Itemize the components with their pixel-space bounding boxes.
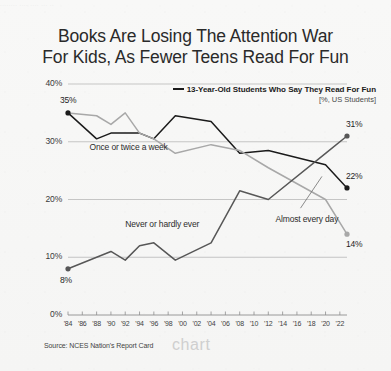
series-annotation: Almost every day [275, 214, 338, 224]
x-tick-label: '22 [331, 320, 349, 327]
y-tick-label: 0% [32, 309, 62, 319]
gridlines-group [68, 84, 347, 315]
series-annotation: Never or hardly ever [125, 219, 199, 229]
series-annotation: Once or twice a week [89, 142, 167, 152]
y-tick-label: 10% [32, 251, 62, 261]
series-lines-group [68, 113, 347, 269]
chart-page: ........ .... .... ... .. Books Are Losi… [0, 0, 391, 371]
value-label-start-once: 35% [60, 95, 76, 105]
y-tick-label: 20% [32, 194, 62, 204]
value-label-end-once: 22% [346, 171, 362, 181]
source-note: Source: NCES Nation's Report Card [44, 342, 153, 349]
y-tick-label: 30% [32, 136, 62, 146]
y-tick-label: 40% [32, 78, 62, 88]
value-label-end-never: 31% [346, 119, 362, 129]
chart-watermark: chart [172, 336, 211, 354]
x-axis-group [68, 312, 347, 316]
value-label-start-never: 8% [60, 275, 72, 285]
value-label-end-almost: 14% [346, 239, 362, 249]
annotation-leader-lines [301, 176, 322, 208]
